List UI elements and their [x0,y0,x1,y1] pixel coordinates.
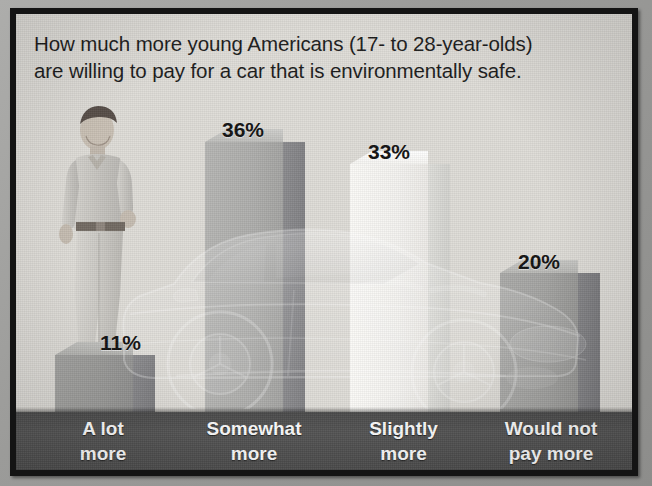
bar-value-a-lot-more: 11% [100,331,141,355]
bar-value-slightly-more: 33% [368,140,410,164]
plot-area: 11% 36% 33% 20% [16,14,632,470]
chart-screenshot: How much more young Americans (17- to 28… [0,0,652,486]
bar-front-face [205,142,283,436]
chart-plate: How much more young Americans (17- to 28… [16,14,632,470]
category-axis-band: A lot more Somewhat more Slightly more W… [16,412,632,470]
category-label-would-not-pay-more: Would not pay more [476,416,626,466]
bar-side-face [428,164,450,436]
band-shadow [16,407,632,412]
bar-side-face [283,142,305,436]
category-label-slightly-more: Slightly more [336,416,471,466]
category-label-somewhat-more: Somewhat more [179,416,329,466]
bar-value-somewhat-more: 36% [222,118,264,142]
bar-front-face [350,164,428,436]
bar-slightly-more [350,164,428,436]
bar-value-would-not-pay-more: 20% [518,250,560,274]
category-label-a-lot-more: A lot more [38,416,168,466]
bar-somewhat-more [205,142,283,436]
